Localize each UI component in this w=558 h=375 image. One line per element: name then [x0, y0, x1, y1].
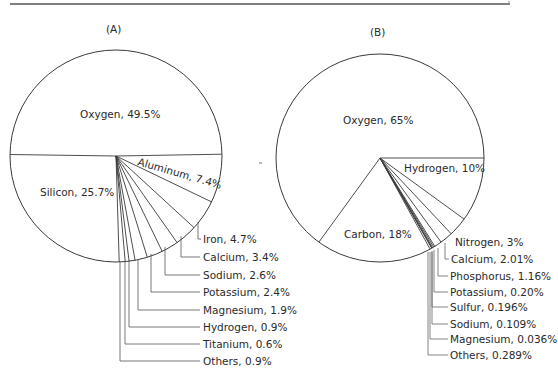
- callout-label: Magnesium, 0.036%: [450, 333, 557, 345]
- pie-chart-a: (A) Oxygen, 49.5% Silicon, 25.7% Aluminu…: [10, 23, 297, 367]
- chart-b-callouts: Nitrogen, 3%Calcium, 2.01%Phosphorus, 1.…: [428, 236, 557, 361]
- callout-leader: [165, 247, 200, 275]
- callout-leader: [181, 236, 200, 257]
- chart-b-label-carbon: Carbon, 18%: [344, 228, 412, 240]
- chart-b-label-hydrogen: Hydrogen, 10%: [404, 162, 485, 174]
- callout-label: Potassium, 0.20%: [450, 286, 544, 298]
- chart-a-label-aluminum: Aluminum, 7.4%: [136, 155, 223, 190]
- callout-label: Nitrogen, 3%: [455, 236, 524, 248]
- chart-a-callouts: Iron, 4.7%Calcium, 3.4%Sodium, 2.6%Potas…: [120, 222, 297, 367]
- callout-label: Potassium, 2.4%: [203, 286, 290, 298]
- chart-a-label-silicon: Silicon, 25.7%: [40, 186, 114, 198]
- wedge-boundary: [116, 154, 222, 156]
- callout-label: Calcium, 2.01%: [451, 253, 533, 265]
- callout-label: Iron, 4.7%: [203, 233, 257, 245]
- callout-leader: [129, 261, 200, 327]
- callout-label: Magnesium, 1.9%: [203, 304, 297, 316]
- pie-chart-b: (B) Oxygen, 65% Hydrogen, 10% Carbon, 18…: [276, 26, 557, 361]
- callout-label: Sulfur, 0.196%: [450, 301, 528, 313]
- callout-leader: [438, 248, 448, 276]
- callout-label: Others, 0.9%: [203, 355, 272, 367]
- callout-label: Calcium, 3.4%: [203, 251, 279, 263]
- chart-b-label-oxygen: Oxygen, 65%: [343, 114, 414, 126]
- chart-b-title: (B): [370, 26, 385, 38]
- callout-leader: [430, 252, 448, 339]
- callout-leader: [445, 243, 449, 259]
- callout-leader: [434, 250, 448, 292]
- callout-label: Sodium, 0.109%: [450, 318, 536, 330]
- chart-a-label-oxygen: Oxygen, 49.5%: [80, 108, 161, 120]
- wedge-boundary: [10, 155, 116, 157]
- callout-label: Others, 0.289%: [450, 349, 532, 361]
- callout-label: Titanium, 0.6%: [202, 338, 282, 350]
- callout-leader: [125, 262, 200, 344]
- chart-a-title: (A): [106, 23, 121, 35]
- callout-leader: [120, 262, 200, 361]
- callout-label: Phosphorus, 1.16%: [450, 270, 551, 282]
- callout-leader: [198, 222, 201, 239]
- callout-label: Hydrogen, 0.9%: [203, 321, 287, 333]
- callout-leader: [151, 254, 200, 292]
- callout-label: Sodium, 2.6%: [203, 269, 276, 281]
- chart-a-wedges: [10, 50, 222, 262]
- figure: (A) Oxygen, 49.5% Silicon, 25.7% Aluminu…: [0, 0, 558, 375]
- callout-leader: [138, 259, 200, 310]
